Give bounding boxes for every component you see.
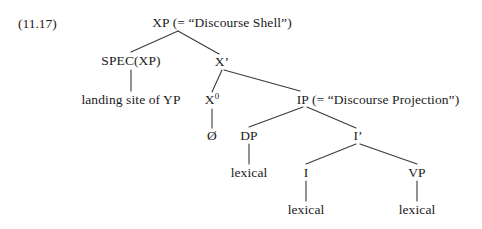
branch-xp-to-spec (131, 31, 178, 52)
example-number: (11.17) (18, 17, 57, 31)
branch-xbar-to-ip (224, 70, 300, 91)
tree-branch-lines (0, 0, 482, 229)
node-x-zero: X0 (205, 93, 219, 107)
branch-ibar-to-i (306, 144, 356, 164)
node-xp: XP (= “Discourse Shell”) (152, 16, 292, 30)
branch-ip-to-dp (249, 107, 303, 127)
leaf-dp-lexical: lexical (231, 166, 268, 180)
node-i-bar: I’ (353, 129, 362, 143)
node-ip: IP (= “Discourse Projection”) (297, 93, 460, 107)
syntax-tree-figure: (11.17) XP (= “Discourse S (0, 0, 482, 229)
branch-xbar-to-xzero (212, 70, 222, 92)
node-vp: VP (408, 166, 425, 180)
branch-ip-to-ibar (307, 107, 356, 128)
leaf-null-symbol: Ø (207, 129, 217, 143)
leaf-vp-lexical: lexical (399, 203, 436, 217)
branch-ibar-to-vp (360, 144, 417, 164)
node-dp: DP (240, 129, 257, 143)
leaf-landing-site-of-yp: landing site of YP (81, 93, 180, 107)
branch-xp-to-xbar (178, 31, 219, 54)
node-spec-xp: SPEC(XP) (101, 54, 160, 68)
node-x-bar: X’ (215, 55, 229, 69)
node-x-zero-superscript: 0 (215, 91, 220, 101)
node-i-head: I (304, 166, 309, 180)
node-x-zero-base: X (205, 92, 215, 107)
leaf-i-lexical: lexical (288, 203, 325, 217)
